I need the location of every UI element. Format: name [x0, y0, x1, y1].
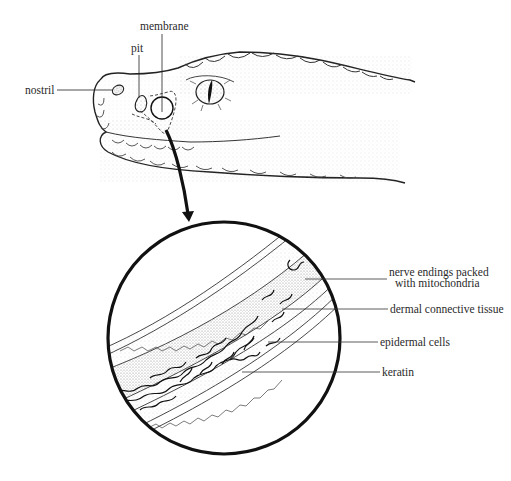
label-epidermal-cells: epidermal cells — [380, 336, 450, 348]
label-dermal-connective-tissue: dermal connective tissue — [390, 303, 504, 315]
magnified-inset — [100, 220, 364, 454]
diagram-canvas — [0, 0, 511, 481]
label-keratin: keratin — [382, 366, 414, 378]
snake-head — [93, 52, 415, 183]
label-pit: pit — [131, 42, 143, 54]
label-membrane: membrane — [140, 20, 189, 32]
label-nostril: nostril — [25, 84, 54, 96]
label-nerve-endings-line2: with mitochondria — [395, 277, 480, 289]
